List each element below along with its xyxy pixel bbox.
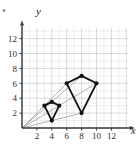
y-tick-label-12: 12 — [8, 34, 17, 44]
x-tick-label-4: 4 — [50, 131, 55, 141]
dilation-graph-figure: 2468101224681012 y x — [0, 0, 140, 145]
y-tick-label-6: 6 — [13, 79, 18, 89]
y-axis-label: y — [35, 5, 41, 17]
y-tick-label-8: 8 — [13, 64, 18, 74]
preimage-quadrilateral-vertex-2 — [57, 104, 61, 108]
grid-major-lines — [22, 28, 128, 128]
image-quadrilateral-vertex-0 — [65, 81, 69, 85]
preimage-quadrilateral-vertex-3 — [50, 118, 54, 122]
preimage-quadrilateral-vertex-0 — [42, 104, 46, 108]
image-quadrilateral-vertex-2 — [94, 81, 98, 85]
preimage-quadrilateral-vertex-1 — [50, 100, 54, 104]
y-axis-arrowhead — [20, 20, 24, 25]
axis-tick-labels: 2468101224681012 — [8, 34, 116, 141]
x-tick-label-2: 2 — [35, 131, 40, 141]
image-quadrilateral-vertex-3 — [80, 111, 84, 115]
x-tick-label-8: 8 — [79, 131, 84, 141]
y-tick-label-4: 4 — [13, 93, 18, 103]
x-tick-label-10: 10 — [92, 131, 102, 141]
coordinate-plane-svg: 2468101224681012 y x — [0, 0, 140, 145]
y-tick-label-10: 10 — [8, 49, 18, 59]
x-tick-label-12: 12 — [107, 131, 116, 141]
x-axis-label: x — [130, 125, 136, 136]
y-tick-label-2: 2 — [13, 108, 18, 118]
image-quadrilateral-vertex-1 — [80, 74, 84, 78]
x-tick-label-6: 6 — [64, 131, 69, 141]
corner-bullet-icon — [3, 9, 6, 12]
